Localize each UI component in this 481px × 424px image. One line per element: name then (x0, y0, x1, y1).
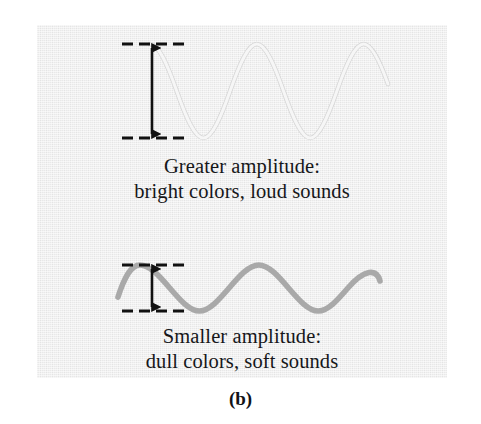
greater-amplitude-caption: Greater amplitude: bright colors, loud s… (37, 154, 447, 204)
smaller-amplitude-wave (118, 265, 380, 311)
illustration-panel: Greater amplitude: bright colors, loud s… (37, 25, 447, 378)
figure-letter-label: (b) (0, 388, 481, 410)
smaller-amplitude-caption: Smaller amplitude: dull colors, soft sou… (37, 324, 447, 374)
wave-amplitude-figure: Greater amplitude: bright colors, loud s… (0, 0, 481, 424)
smaller-caption-line-1: Smaller amplitude: (37, 324, 447, 349)
greater-caption-line-2: bright colors, loud sounds (37, 179, 447, 204)
panel-inner: Greater amplitude: bright colors, loud s… (37, 25, 447, 378)
smaller-wave-path (118, 265, 380, 311)
greater-amplitude-wave (150, 44, 388, 156)
greater-caption-line-1: Greater amplitude: (37, 154, 447, 179)
smaller-caption-line-2: dull colors, soft sounds (37, 349, 447, 374)
